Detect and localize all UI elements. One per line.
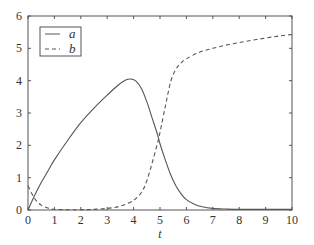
series-line-b [28,34,292,209]
y-tick-label: 1 [16,171,22,185]
y-tick-label: 6 [16,9,22,23]
x-tick-label: 8 [236,213,242,227]
x-tick-label: 7 [210,213,216,227]
data-series [28,34,292,210]
legend-label-b: b [69,41,76,56]
line-chart: 012345678910 0123456 t a b [0,0,314,245]
y-tick-label: 0 [16,203,22,217]
x-tick-label: 6 [183,213,189,227]
x-axis-label: t [158,227,162,241]
x-tick-label: 5 [157,213,163,227]
x-tick-label: 1 [51,213,57,227]
legend-label-a: a [69,26,76,41]
x-tick-label: 3 [104,213,110,227]
y-tick-label: 4 [16,74,22,88]
x-tick-label: 9 [263,213,269,227]
x-tick-label: 4 [131,213,137,227]
x-tick-label: 10 [286,213,298,227]
series-line-a [28,79,292,210]
x-tick-labels: 012345678910 [25,213,298,227]
x-tick-label: 2 [78,213,84,227]
y-tick-label: 2 [16,138,22,152]
legend: a b [40,26,81,56]
x-tick-label: 0 [25,213,31,227]
y-tick-label: 3 [16,106,22,120]
y-tick-label: 5 [16,41,22,55]
y-tick-labels: 0123456 [16,9,22,217]
